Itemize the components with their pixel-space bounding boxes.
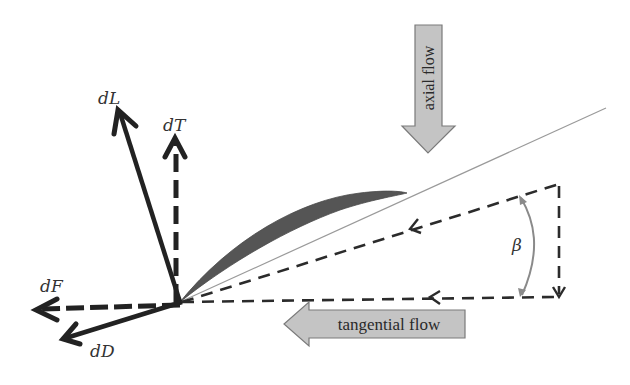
chord-line: [180, 108, 606, 302]
tangential-flow-arrow: tangential flow: [284, 302, 465, 346]
tangential-force-label: dF: [40, 276, 64, 296]
tangential-velocity-line: [182, 297, 555, 302]
drag-label: dD: [90, 341, 115, 361]
relative-velocity-line: [182, 184, 559, 302]
angle-arc-top-arrowhead-icon: [519, 195, 527, 205]
axial-flow-arrow: axial flow: [402, 25, 455, 153]
lift-label: dL: [98, 88, 120, 108]
tangential-velocity-arrowhead-icon: [430, 291, 440, 304]
angle-arc: [521, 198, 534, 295]
tangential-flow-label: tangential flow: [338, 315, 441, 334]
blade-element-diagram: β dL dT dF dD axial flow tangential flow: [0, 0, 630, 385]
thrust-label: dT: [163, 115, 187, 135]
angle-beta-label: β: [511, 235, 522, 255]
airfoil-blade: [180, 191, 407, 302]
axial-flow-label: axial flow: [420, 45, 437, 110]
